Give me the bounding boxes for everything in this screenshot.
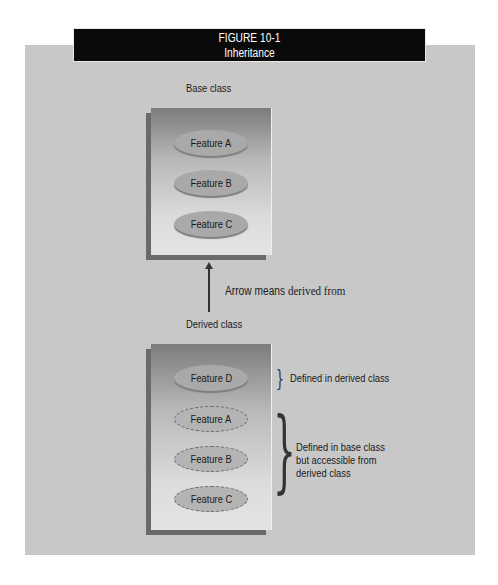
figure-title-bar: FIGURE 10-1 Inheritance bbox=[73, 28, 426, 62]
inherited-feature-a: Feature A bbox=[174, 406, 248, 432]
own-annotation: Defined in derived class bbox=[290, 372, 389, 384]
arrow-caption-bold: Arrow means bbox=[225, 284, 285, 298]
base-feature-a: Feature A bbox=[174, 130, 248, 156]
derived-class-label: Derived class bbox=[186, 318, 242, 330]
arrow-caption: Arrow means derived from bbox=[225, 283, 345, 299]
inherited-feature-b: Feature B bbox=[174, 446, 248, 472]
base-feature-c: Feature C bbox=[174, 211, 248, 237]
inherited-annotation: Defined in base class but accessible fro… bbox=[296, 441, 385, 480]
derived-class-box: Feature D Feature A Feature B Feature C bbox=[151, 344, 271, 530]
figure-title: Inheritance bbox=[100, 46, 398, 61]
inheritance-arrow bbox=[208, 266, 210, 312]
figure-number: FIGURE 10-1 bbox=[100, 31, 398, 46]
base-class-label: Base class bbox=[186, 82, 231, 94]
derived-feature-d: Feature D bbox=[174, 365, 248, 391]
brace-small-icon: } bbox=[276, 366, 284, 391]
base-class-box: Feature A Feature B Feature C bbox=[151, 108, 271, 255]
inherited-annotation-line-2: but accessible from bbox=[296, 454, 385, 467]
inherited-feature-c: Feature C bbox=[174, 486, 248, 512]
brace-large-icon: } bbox=[273, 405, 296, 495]
inherited-annotation-line-1: Defined in base class bbox=[296, 441, 385, 454]
base-feature-b: Feature B bbox=[174, 170, 248, 196]
arrow-caption-plain: derived from bbox=[288, 283, 345, 298]
inherited-annotation-line-3: derived class bbox=[296, 467, 385, 480]
